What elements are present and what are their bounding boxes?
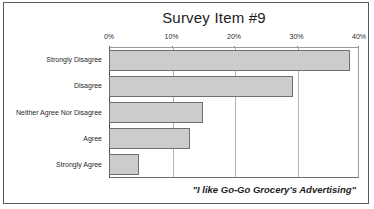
chart-container: Survey Item #9 0%10%20%30%40% Strongly D… — [3, 2, 369, 204]
bar-row — [109, 126, 359, 152]
category-label: Strongly Agree — [56, 160, 102, 169]
bar — [109, 102, 203, 123]
bar — [109, 128, 190, 149]
chart-annotation: "I like Go-Go Grocery's Advertising" — [193, 184, 357, 195]
x-tick-label: 30% — [289, 33, 303, 40]
bar — [109, 50, 350, 71]
plot-wrap — [109, 47, 359, 178]
bar-row — [109, 152, 359, 178]
x-tick-label: 20% — [227, 33, 241, 40]
chart-title: Survey Item #9 — [4, 9, 369, 26]
category-label: Neither Agree Nor Disagree — [16, 108, 102, 117]
bar — [109, 154, 139, 175]
category-label: Disagree — [74, 81, 102, 90]
bar — [109, 76, 293, 97]
x-tick-label: 10% — [164, 33, 178, 40]
category-label: Strongly Disagree — [46, 55, 102, 64]
x-tick-label: 40% — [352, 33, 366, 40]
category-label: Agree — [83, 134, 102, 143]
x-tick-label: 0% — [104, 33, 114, 40]
bar-row — [109, 73, 359, 99]
x-axis-tick-labels: 0%10%20%30%40% — [109, 33, 359, 47]
bar-row — [109, 47, 359, 73]
bar-row — [109, 99, 359, 125]
category-axis-labels: Strongly DisagreeDisagreeNeither Agree N… — [6, 47, 106, 178]
